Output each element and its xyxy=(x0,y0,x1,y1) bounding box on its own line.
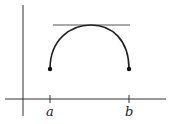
rolle-diagram: a b xyxy=(0,0,170,124)
curve xyxy=(50,25,129,69)
endpoint-b-dot xyxy=(127,67,131,71)
endpoint-a-dot xyxy=(48,67,52,71)
label-b: b xyxy=(125,104,133,119)
label-a: a xyxy=(46,104,54,119)
